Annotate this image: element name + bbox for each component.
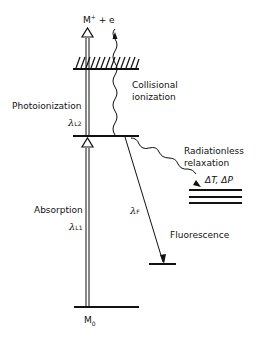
radiationless-label-1: Radiationless [184,146,244,156]
collisional-label-2: ionization [132,92,176,102]
fluorescence-arrow [125,137,163,262]
lambda-l1-label: λL1 [69,222,83,233]
collisional-ionization-wave [113,29,117,135]
ionization-limit-hatch [73,57,139,69]
ion-label: M+ + e [83,12,115,25]
relaxation-levels [189,190,242,203]
photoionization-arrow [82,28,93,135]
delta-tp-label: ΔT, ΔP [205,175,233,185]
ground-state-label: M0 [84,315,96,329]
radiationless-wave [131,138,196,174]
photoionization-label: Photoionization [12,101,81,111]
radiationless-arrowhead [193,180,201,187]
collisional-label-1: Collisional [132,80,178,90]
radiationless-label-2: relaxation [184,158,229,168]
absorption-arrow [82,138,93,306]
energy-level-diagram [0,0,258,338]
absorption-label: Absorption [34,205,83,215]
fluorescence-label: Fluorescence [170,230,229,240]
lambda-l2-label: λL2 [68,118,82,129]
lambda-f-label: λF [130,206,140,217]
fluorescence-arrowhead [160,254,166,264]
